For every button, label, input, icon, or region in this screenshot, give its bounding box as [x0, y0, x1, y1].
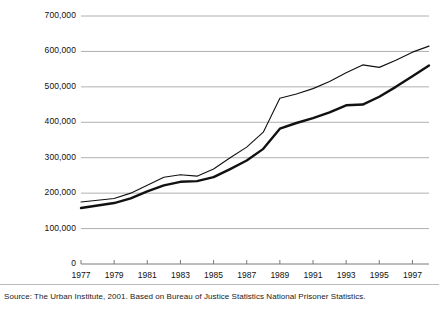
y-axis-tick-label: 100,000: [2, 224, 76, 233]
y-axis-tick-label: 200,000: [2, 188, 76, 197]
data-series-group: [81, 46, 429, 208]
y-axis-tick-label: 400,000: [2, 117, 76, 126]
y-axis-tick-label: 700,000: [2, 11, 76, 20]
y-axis-tick-label: 500,000: [2, 82, 76, 91]
figure-container: 0100,000200,000300,000400,000500,000600,…: [0, 0, 439, 309]
footer-divider: [0, 284, 439, 285]
line-chart-svg: [0, 0, 439, 285]
y-axis-tick-label: 0: [2, 259, 76, 268]
y-axis-tick-label: 300,000: [2, 153, 76, 162]
source-note: Source: The Urban Institute, 2001. Based…: [4, 292, 366, 301]
data-line-upper-line: [81, 46, 429, 202]
x-axis-tick-label: 1997: [392, 271, 432, 280]
x-axis-ticks-group: [81, 260, 412, 264]
chart-plot-area: 0100,000200,000300,000400,000500,000600,…: [0, 0, 439, 285]
y-axis-tick-label: 600,000: [2, 46, 76, 55]
